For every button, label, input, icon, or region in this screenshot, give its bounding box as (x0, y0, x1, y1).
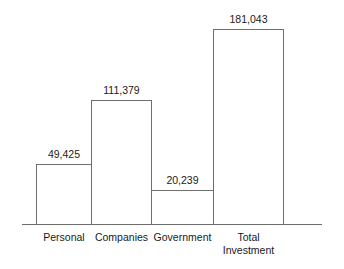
category-label-total-investment-line1: Total (208, 231, 289, 244)
bar-total-investment (213, 29, 284, 225)
bar-companies (91, 100, 152, 225)
bar-personal (36, 164, 92, 225)
plot-area: 49,425 Personal 111,379 Companies 20,239… (0, 0, 344, 269)
bar-value-government: 20,239 (142, 174, 223, 186)
bar-value-total-investment: 181,043 (208, 13, 289, 25)
bar-chart: 49,425 Personal 111,379 Companies 20,239… (0, 0, 344, 269)
bar-value-companies: 111,379 (81, 84, 162, 96)
bar-government (151, 190, 214, 225)
category-label-total-investment: Total Investment (208, 231, 289, 257)
category-label-total-investment-line2: Investment (208, 244, 289, 257)
